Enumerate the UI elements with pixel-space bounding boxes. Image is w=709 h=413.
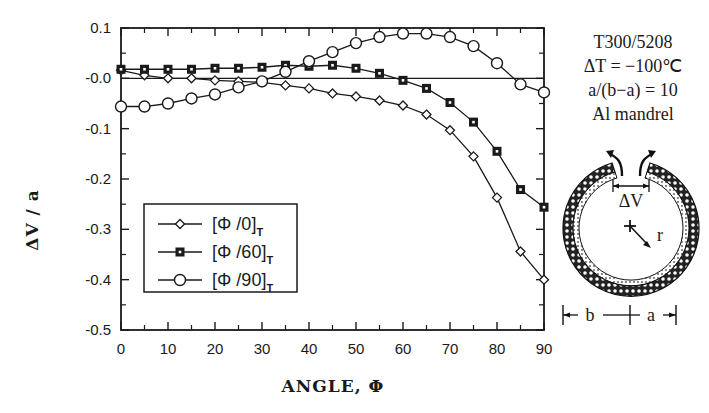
diamond-marker-icon bbox=[211, 76, 220, 85]
diamond-marker-icon bbox=[399, 101, 408, 110]
circle-marker-icon bbox=[116, 101, 127, 112]
mandrel-label: Al mandrel bbox=[558, 102, 708, 126]
x-tick-label: 60 bbox=[395, 340, 412, 357]
y-tick-label: -0.2 bbox=[85, 170, 111, 187]
circle-marker-icon bbox=[139, 101, 150, 112]
x-tick-label: 0 bbox=[117, 340, 125, 357]
circle-marker-icon bbox=[304, 56, 315, 67]
diamond-marker-icon bbox=[281, 81, 290, 90]
circle-marker-icon bbox=[445, 32, 456, 43]
y-tick-label: -0.3 bbox=[85, 220, 111, 237]
gap-label: ΔV bbox=[619, 191, 644, 211]
circle-marker-icon bbox=[374, 32, 385, 43]
x-tick-label: 50 bbox=[348, 340, 365, 357]
y-tick-label: -0.1 bbox=[85, 120, 111, 137]
circle-marker-icon bbox=[175, 275, 186, 286]
x-tick-label: 90 bbox=[536, 340, 553, 357]
circle-marker-icon bbox=[257, 76, 268, 87]
circle-marker-icon bbox=[468, 41, 479, 52]
y-tick-label: -0.4 bbox=[85, 271, 111, 288]
y-axis-title: ΔV / a bbox=[22, 189, 42, 250]
ring-diagram: ΔV r b a bbox=[563, 150, 699, 325]
ring-inner-layer bbox=[573, 172, 689, 286]
series-circle bbox=[116, 28, 550, 112]
diamond-marker-icon bbox=[493, 193, 502, 202]
x-tick-label: 30 bbox=[254, 340, 271, 357]
circle-marker-icon bbox=[421, 28, 432, 39]
circle-marker-icon bbox=[280, 66, 291, 77]
y-tick-label: 0.1 bbox=[90, 19, 111, 36]
series-square bbox=[117, 61, 549, 212]
delta-t-label: ΔT = −100℃ bbox=[558, 54, 708, 78]
x-tick-label: 40 bbox=[301, 340, 318, 357]
ratio-label: a/(b−a) = 10 bbox=[558, 78, 708, 102]
diamond-marker-icon bbox=[187, 74, 196, 83]
circle-marker-icon bbox=[351, 38, 362, 49]
radius-label: r bbox=[657, 225, 663, 245]
series-line bbox=[121, 65, 544, 207]
diamond-marker-icon bbox=[305, 84, 314, 93]
legend-subscript: T bbox=[266, 254, 273, 266]
diamond-marker-icon bbox=[352, 92, 361, 101]
annotation-block: T300/5208 ΔT = −100℃ a/(b−a) = 10 Al man… bbox=[558, 30, 708, 126]
x-tick-label: 70 bbox=[442, 340, 459, 357]
legend: [Φ /0]T[Φ /60]T[Φ /90]T bbox=[144, 204, 297, 294]
legend-subscript: T bbox=[256, 226, 263, 238]
x-tick-label: 80 bbox=[489, 340, 506, 357]
dimension-a-label: a bbox=[647, 305, 655, 325]
circle-marker-icon bbox=[539, 87, 550, 98]
y-tick-label: -0.0 bbox=[85, 69, 111, 86]
x-axis: 0102030405060708090 bbox=[117, 28, 553, 357]
x-axis-title: ANGLE, Φ bbox=[281, 376, 385, 396]
x-tick-label: 10 bbox=[160, 340, 177, 357]
x-tick-label: 20 bbox=[207, 340, 224, 357]
diamond-marker-icon bbox=[164, 74, 173, 83]
circle-marker-icon bbox=[492, 58, 503, 69]
circle-marker-icon bbox=[210, 89, 221, 100]
ring-outer-layer bbox=[563, 163, 699, 296]
circle-marker-icon bbox=[186, 93, 197, 104]
circle-marker-icon bbox=[233, 82, 244, 93]
circle-marker-icon bbox=[163, 98, 174, 109]
diamond-marker-icon bbox=[422, 110, 431, 119]
y-tick-label: -0.5 bbox=[85, 321, 111, 338]
diamond-marker-icon bbox=[328, 89, 337, 98]
material-label: T300/5208 bbox=[558, 30, 708, 54]
dimension-b-label: b bbox=[586, 305, 595, 325]
circle-marker-icon bbox=[327, 47, 338, 58]
circle-marker-icon bbox=[515, 79, 526, 90]
circle-marker-icon bbox=[398, 28, 409, 39]
diamond-marker-icon bbox=[375, 96, 384, 105]
legend-subscript: T bbox=[266, 282, 273, 294]
